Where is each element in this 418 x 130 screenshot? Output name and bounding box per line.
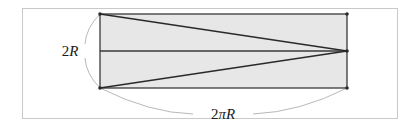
- circumference-label-symbol: πR: [218, 106, 235, 122]
- circumference-label-number: 2: [211, 106, 219, 122]
- figure-container: 2R 2πR: [0, 0, 418, 130]
- geometry-figure: 2R 2πR: [0, 0, 418, 130]
- vertex-dot: [345, 12, 349, 16]
- vertex-dot: [345, 49, 349, 53]
- circumference-label-2pir: 2πR: [211, 106, 235, 122]
- height-label-number: 2: [62, 43, 70, 59]
- vertex-dot: [98, 86, 102, 90]
- height-label-symbol: R: [68, 43, 78, 59]
- vertex-dot: [98, 12, 102, 16]
- vertex-dot: [345, 86, 349, 90]
- height-label-2r: 2R: [62, 43, 79, 59]
